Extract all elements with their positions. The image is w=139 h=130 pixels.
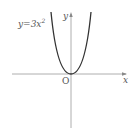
origin-label: O <box>62 76 69 86</box>
y-axis-label: y <box>62 11 69 21</box>
graph: y=3x2 y O x <box>0 0 139 130</box>
y-axis-arrow-icon <box>69 12 72 17</box>
x-axis-label: x <box>123 75 128 85</box>
function-label: y=3x2 <box>17 17 45 29</box>
